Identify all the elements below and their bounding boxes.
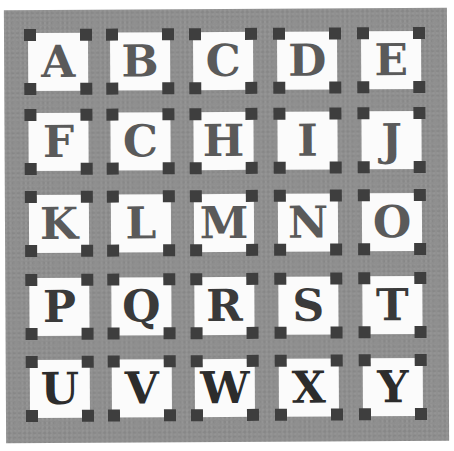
quilt-block: U bbox=[30, 360, 90, 418]
block-letter: N bbox=[278, 193, 338, 251]
quilt-block: T bbox=[362, 276, 422, 334]
block-letter: W bbox=[195, 359, 255, 417]
block-letter: E bbox=[361, 31, 421, 89]
quilt-block: N bbox=[278, 193, 338, 251]
block-letter: V bbox=[112, 359, 172, 417]
block-letter: L bbox=[111, 194, 171, 252]
block-letter: I bbox=[277, 111, 337, 169]
block-letter: Y bbox=[363, 358, 423, 416]
quilt-block: F bbox=[28, 113, 88, 171]
quilt-block: I bbox=[277, 111, 337, 169]
quilt-block: X bbox=[279, 358, 339, 416]
block-letter: R bbox=[194, 277, 254, 335]
quilt-block: W bbox=[195, 359, 255, 417]
quilt-block: Q bbox=[111, 277, 171, 335]
quilt-block: L bbox=[111, 194, 171, 252]
block-letter: X bbox=[279, 358, 339, 416]
quilt-block: K bbox=[29, 195, 89, 253]
block-letter: J bbox=[361, 111, 421, 169]
block-letter: P bbox=[29, 278, 89, 336]
quilt-block: M bbox=[194, 194, 254, 252]
quilt-block: S bbox=[278, 276, 338, 334]
block-letter: Q bbox=[111, 277, 171, 335]
quilt-block: A bbox=[28, 33, 88, 91]
block-letter: F bbox=[28, 113, 88, 171]
quilt-block: H bbox=[193, 112, 253, 170]
block-letter: T bbox=[362, 276, 422, 334]
quilt-block: R bbox=[194, 277, 254, 335]
quilt-block: D bbox=[277, 31, 337, 89]
quilt-block: C bbox=[193, 32, 253, 90]
block-letter: H bbox=[193, 112, 253, 170]
block-letter: O bbox=[362, 193, 422, 251]
quilt-block: E bbox=[361, 31, 421, 89]
quilt-block: J bbox=[361, 111, 421, 169]
quilt-block: Y bbox=[363, 358, 423, 416]
quilt-block: B bbox=[110, 32, 170, 90]
block-letter: C bbox=[193, 32, 253, 90]
block-letter: C bbox=[110, 112, 170, 170]
quilt-block: O bbox=[362, 193, 422, 251]
quilt-block: C bbox=[110, 112, 170, 170]
block-letter: D bbox=[277, 31, 337, 89]
block-letter: K bbox=[29, 195, 89, 253]
block-letter: A bbox=[28, 33, 88, 91]
block-letter: B bbox=[110, 32, 170, 90]
quilt: ABCDEFCHIJKLMNOPQRSTUVWXY bbox=[4, 8, 449, 443]
block-letter: S bbox=[278, 276, 338, 334]
block-letter: U bbox=[30, 360, 90, 418]
block-letter: M bbox=[194, 194, 254, 252]
quilt-block: P bbox=[29, 278, 89, 336]
quilt-block: V bbox=[112, 359, 172, 417]
